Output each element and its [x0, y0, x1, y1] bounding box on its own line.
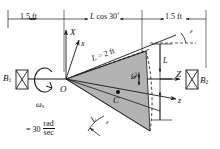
mass-center-dot	[116, 90, 120, 94]
origin-label: O	[60, 85, 67, 94]
omega-value-label: = 30 radsec	[26, 120, 55, 137]
lowercase-x-axis-label: x	[81, 40, 85, 48]
dimension-left-label: 1.5 ft	[20, 13, 37, 21]
mechanics-figure: 1.5 ft L cos 30° 1.5 ft B1 B2 X x Z z O …	[0, 0, 220, 149]
bearing-right-label: B2	[200, 76, 208, 86]
epsilon-bottom-label: ε	[106, 119, 109, 126]
capital-Z-axis-label: Z	[176, 70, 181, 79]
bearing-left-symbol	[16, 70, 28, 89]
epsilon-mid-label: ε	[131, 74, 134, 81]
lowercase-z-axis-label: z	[178, 97, 181, 105]
height-dimension-L	[152, 44, 172, 120]
disk-shape	[66, 51, 152, 131]
capital-X-axis-label: X	[70, 28, 76, 37]
height-L-top-label: L	[163, 57, 167, 65]
bearing-right-symbol	[186, 70, 198, 89]
rad-per-sec-fraction: radsec	[43, 120, 55, 137]
rotation-arrow	[35, 68, 52, 92]
dimension-right-label: 1.5 ft	[165, 13, 182, 21]
dimension-middle-label: L cos 30°	[90, 13, 119, 21]
mass-center-label: C	[113, 96, 119, 105]
lowercase-x-axis	[66, 40, 79, 79]
epsilon-top-label: ε	[190, 28, 193, 35]
bearing-left-label: B1	[3, 74, 11, 84]
omega-symbol-label: ω0	[36, 101, 44, 110]
